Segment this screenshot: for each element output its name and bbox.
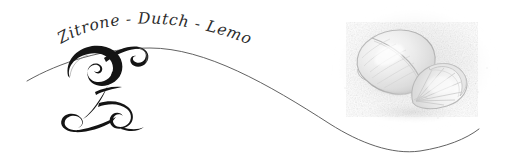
wordmark-word-zitrone: Zitrone: [54, 11, 122, 48]
wordmark-text: Zitrone - Dutch - Lemon: [0, 0, 255, 48]
zitrone-dutch-lemon-wordmark: Zitrone - Dutch - Lemon: [0, 0, 506, 168]
wordmark-word-dutch: Dutch: [137, 10, 191, 32]
logo-canvas: Zitrone - Dutch - Lemon: [0, 0, 506, 168]
